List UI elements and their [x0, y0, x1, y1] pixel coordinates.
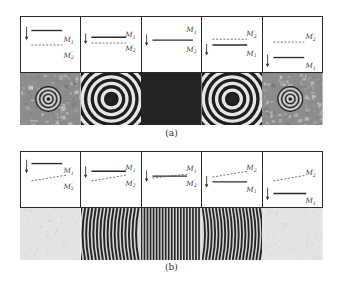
mirror-cell-a3: M1M2′	[142, 17, 202, 72]
arrowhead-icon	[84, 41, 87, 44]
label-m1: M1	[304, 61, 315, 70]
arrowhead-icon	[266, 197, 269, 200]
arrowhead-icon	[205, 184, 208, 187]
label-m1: M1	[185, 164, 196, 173]
fringe-center	[228, 95, 237, 104]
label-m1: M1	[125, 30, 136, 39]
fringe-image-a5	[262, 73, 323, 125]
label-m1: M1	[246, 185, 257, 194]
mirror-diagram: M1M2′	[21, 17, 80, 72]
arrowhead-icon	[25, 37, 28, 40]
fringe-center	[106, 95, 115, 104]
fringe-image-a4	[202, 73, 263, 125]
label-m2-prime: M2′	[125, 44, 136, 53]
mirror-diagram: M2′M1	[202, 17, 261, 72]
arrowhead-icon	[205, 52, 208, 55]
fringe-image-a3	[141, 73, 202, 125]
mirror-diagram-row-a: M1M2′ M1M2′ M1M2′ M2′M1 M2′M1	[20, 16, 323, 73]
mirror-diagram: M1M2′	[81, 152, 140, 207]
mirror-cell-a4: M2′M1	[202, 17, 262, 72]
fringe-image-b3	[141, 208, 202, 260]
mirror-diagram: M1M2′	[142, 152, 201, 207]
caption-a: (a)	[20, 128, 323, 138]
label-m1: M1	[185, 25, 196, 34]
mirror-m2-image-line	[213, 171, 248, 177]
fringe-image-b1	[20, 208, 81, 260]
mirror-m2-image-line	[92, 175, 127, 181]
fringe-image-a2	[81, 73, 142, 125]
label-m2-prime: M2′	[125, 179, 136, 188]
label-m2-prime: M2′	[246, 29, 257, 38]
mirror-diagram: M1M2′	[81, 17, 140, 72]
fringe-image-b5	[262, 208, 323, 260]
mirror-diagram: M1M2′	[21, 152, 80, 207]
mirror-cell-b1: M1M2′	[21, 152, 81, 207]
arrowhead-icon	[145, 43, 148, 46]
concentric-fringes	[278, 87, 303, 112]
arrowhead-icon	[266, 64, 269, 67]
label-m2-prime: M2′	[185, 45, 196, 54]
label-m2-prime: M2′	[185, 179, 196, 188]
label-m1: M1	[246, 49, 257, 58]
mirror-cell-b3: M1M2′	[142, 152, 202, 207]
label-m1: M1	[304, 196, 315, 205]
fringe-strip-a	[20, 73, 323, 125]
arrowhead-icon	[25, 170, 28, 173]
mirror-diagram: M2′M1	[263, 17, 322, 72]
image-background	[262, 208, 323, 260]
arrowhead-icon	[84, 175, 87, 178]
fringe-image-a1	[20, 73, 81, 125]
arrowhead-icon	[145, 179, 148, 182]
fringe-image-b4	[202, 208, 263, 260]
fringe-image-b2	[81, 208, 142, 260]
mirror-cell-a2: M1M2′	[81, 17, 141, 72]
mirror-cell-b4: M2′M1	[202, 152, 262, 207]
mirror-diagram: M1M2′	[142, 17, 201, 72]
label-m2-prime: M2′	[304, 168, 315, 177]
uniform-dark-field	[141, 73, 202, 125]
label-m2-prime: M2′	[62, 182, 73, 191]
fringe-strip-b	[20, 208, 323, 260]
label-m2-prime: M2′	[62, 51, 73, 60]
label-m1: M1	[125, 163, 136, 172]
mirror-diagram-row-b: M1M2′ M1M2′ M1M2′ M2′M1 M2′M1	[20, 151, 323, 208]
mirror-cell-b5: M2′M1	[263, 152, 322, 207]
caption-b: (b)	[20, 262, 323, 272]
concentric-fringes	[36, 87, 61, 112]
mirror-cell-a5: M2′M1	[263, 17, 322, 72]
mirror-cell-a1: M1M2′	[21, 17, 81, 72]
mirror-cell-b2: M1M2′	[81, 152, 141, 207]
label-m2-prime: M2′	[246, 163, 257, 172]
label-m2-prime: M2′	[304, 32, 315, 41]
label-m1: M1	[62, 166, 73, 175]
mirror-diagram: M2′M1	[202, 152, 261, 207]
mirror-m2-image-line	[31, 175, 66, 181]
mirror-diagram: M2′M1	[263, 152, 322, 207]
mirror-m2-image-line	[273, 175, 306, 181]
label-m1: M1	[62, 35, 73, 44]
